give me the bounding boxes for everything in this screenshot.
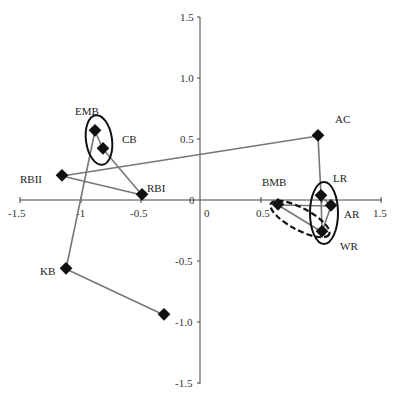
label-lr: LR	[333, 172, 348, 184]
label-ac: AC	[335, 113, 350, 125]
x-tick-label: 0	[204, 207, 210, 219]
label-cb: CB	[122, 133, 137, 145]
link-bmb-wr	[278, 205, 322, 232]
marker-ac	[312, 129, 325, 142]
link-bmb-ar	[278, 205, 331, 206]
marker-emb	[89, 124, 102, 137]
y-tick-label: 1.0	[180, 72, 194, 84]
link-kb-end	[66, 269, 164, 315]
label-bmb: BMB	[262, 176, 286, 188]
label-rbii: RBII	[20, 173, 42, 185]
group-ellipses	[83, 113, 338, 244]
scatter-chart: -1.5 -1 -0.5 0 0.5 1.5 1.5 1.0 0.5 0 -0.…	[0, 0, 400, 403]
label-ar: AR	[344, 208, 360, 220]
x-tick-label: -0.5	[130, 207, 148, 219]
x-tick-label: 1.5	[373, 207, 387, 219]
y-tick-label: 0.5	[180, 133, 194, 145]
connections	[62, 131, 331, 315]
marker-unlabeled	[158, 308, 171, 321]
point-labels: EMB CB RBII RBI KB AC LR AR WR BMB	[20, 105, 360, 277]
y-tick-label: -1.0	[175, 316, 193, 328]
link-rbii-rbi	[62, 176, 142, 195]
link-ac-lr	[318, 136, 321, 196]
y-tick-label: 0	[189, 194, 195, 206]
marker-cb	[97, 142, 110, 155]
x-tick-label: 0.5	[256, 207, 270, 219]
axes	[20, 17, 382, 384]
label-rbi: RBI	[147, 182, 166, 194]
label-wr: WR	[340, 240, 358, 252]
y-tick-label: -1.5	[175, 377, 193, 389]
y-tick-label: -0.5	[175, 255, 193, 267]
y-tick-label: 1.5	[180, 11, 194, 23]
x-tick-label: -1.5	[8, 207, 26, 219]
marker-kb	[60, 262, 73, 275]
marker-rbii	[56, 169, 69, 182]
link-rbi-cb	[103, 149, 142, 195]
data-points	[56, 124, 338, 321]
label-emb: EMB	[75, 105, 99, 117]
label-kb: KB	[40, 265, 55, 277]
